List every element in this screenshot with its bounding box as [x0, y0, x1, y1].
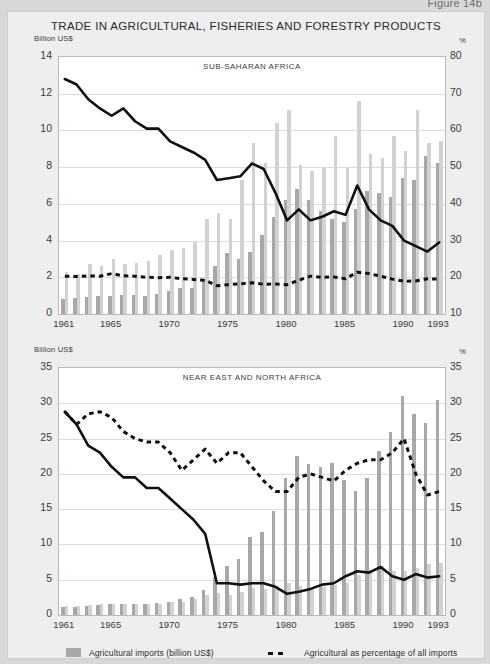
y-axis-tick-label: 5	[12, 572, 52, 584]
right-axis-unit: %	[459, 36, 466, 45]
dashed-line-swatch	[266, 648, 296, 657]
line-overlay	[59, 368, 445, 615]
x-axis-tick-label: 1970	[146, 318, 192, 329]
y-axis-tick-label: 15	[12, 501, 52, 513]
y2-axis-tick-label: 20	[450, 269, 490, 281]
exports-percentage-line	[65, 79, 439, 252]
x-axis-tick-label: 1980	[263, 619, 309, 630]
y2-axis-tick-label: 70	[450, 86, 490, 98]
legend-label-imports-pct: Agricultural as percentage of all import…	[304, 648, 457, 658]
left-axis-unit: Billion US$	[34, 34, 73, 43]
imports-bar-swatch	[66, 648, 81, 657]
y-axis-tick-label: 12	[12, 86, 52, 98]
y-axis-tick-label: 14	[12, 49, 52, 61]
chart-panel-sub-saharan-africa: Billion US$%SUB-SAHARAN AFRICA0246810121…	[8, 34, 484, 343]
y-axis-tick-label: 35	[12, 360, 52, 372]
x-axis-tick-label: 1970	[146, 619, 192, 630]
x-axis-tick-label: 1975	[205, 318, 251, 329]
y2-axis-tick-label: 30	[450, 233, 490, 245]
x-axis-tick-label: 1965	[88, 619, 134, 630]
x-axis-tick-label: 1961	[41, 619, 87, 630]
legend-label-imports-bar: Agricultural imports (billion US$)	[89, 648, 214, 658]
x-axis-tick-label: 1965	[88, 318, 134, 329]
legend-item-imports-bar: Agricultural imports (billion US$)	[66, 648, 214, 658]
y-axis-tick-label: 2	[12, 269, 52, 281]
y-axis-tick-label: 10	[12, 122, 52, 134]
y-axis-tick-label: 25	[12, 431, 52, 443]
imports-percentage-line	[65, 412, 439, 495]
chart-panel-near-east-north-africa: Billion US$%NEAR EAST AND NORTH AFRICA05…	[8, 345, 484, 644]
y2-axis-tick-label: 0	[450, 607, 490, 619]
x-axis-tick-label: 1993	[415, 619, 461, 630]
plot-area: SUB-SAHARAN AFRICA	[58, 56, 446, 315]
plot-area: NEAR EAST AND NORTH AFRICA	[58, 367, 446, 616]
left-axis-unit: Billion US$	[34, 345, 73, 354]
y2-axis-tick-label: 30	[450, 395, 490, 407]
y-axis-tick-label: 0	[12, 306, 52, 318]
figure-card: TRADE IN AGRICULTURAL, FISHERIES AND FOR…	[7, 11, 485, 659]
y2-axis-tick-label: 50	[450, 159, 490, 171]
y-axis-tick-label: 30	[12, 395, 52, 407]
x-axis-tick-label: 1993	[415, 318, 461, 329]
y-axis-tick-label: 10	[12, 536, 52, 548]
y2-axis-tick-label: 25	[450, 431, 490, 443]
figure-label: Figure 14b	[427, 0, 482, 9]
y2-axis-tick-label: 15	[450, 501, 490, 513]
x-axis-tick-label: 1961	[41, 318, 87, 329]
imports-percentage-line	[65, 272, 439, 286]
y-axis-tick-label: 6	[12, 196, 52, 208]
y2-axis-tick-label: 10	[450, 536, 490, 548]
right-axis-unit: %	[459, 347, 466, 356]
line-overlay	[59, 57, 445, 314]
x-axis-tick-label: 1980	[263, 318, 309, 329]
y2-axis-tick-label: 80	[450, 49, 490, 61]
y2-axis-tick-label: 35	[450, 360, 490, 372]
y-axis-tick-label: 4	[12, 233, 52, 245]
y2-axis-tick-label: 40	[450, 196, 490, 208]
y-axis-tick-label: 0	[12, 607, 52, 619]
y2-axis-tick-label: 10	[450, 306, 490, 318]
x-axis-tick-label: 1985	[322, 318, 368, 329]
main-title: TRADE IN AGRICULTURAL, FISHERIES AND FOR…	[8, 20, 484, 32]
legend-item-imports-pct-line: Agricultural as percentage of all import…	[266, 648, 457, 658]
figure-root: Figure 14b TRADE IN AGRICULTURAL, FISHER…	[0, 0, 490, 664]
y-axis-tick-label: 8	[12, 159, 52, 171]
x-axis-tick-label: 1975	[205, 619, 251, 630]
x-axis-tick-label: 1985	[322, 619, 368, 630]
y2-axis-tick-label: 20	[450, 466, 490, 478]
y-axis-tick-label: 20	[12, 466, 52, 478]
exports-percentage-line	[65, 412, 439, 594]
y2-axis-tick-label: 60	[450, 122, 490, 134]
y2-axis-tick-label: 5	[450, 572, 490, 584]
